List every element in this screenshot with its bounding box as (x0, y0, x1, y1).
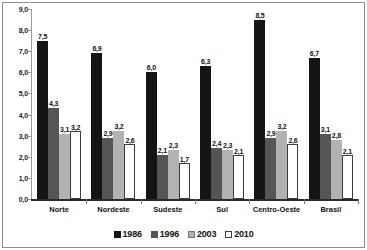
bar-brasil-1986: 6,7 (309, 58, 320, 199)
bar-value-label: 3,2 (277, 123, 286, 130)
y-axis-tick-mark (28, 199, 31, 200)
y-axis-tick-mark (28, 115, 31, 116)
legend-item-1996[interactable]: 1996 (151, 229, 179, 239)
bar-group-bars: 8,52,93,22,6 (249, 9, 303, 199)
bar-value-label: 1,7 (180, 156, 189, 163)
legend-item-2003[interactable]: 2003 (188, 229, 216, 239)
bar-value-label: 6,7 (310, 50, 319, 57)
bar-group-bars: 6,02,12,31,7 (141, 9, 195, 199)
bar-group: 6,92,93,22,6 (86, 9, 140, 199)
legend-item-2010[interactable]: 2010 (225, 229, 253, 239)
x-axis-separator (141, 199, 142, 204)
bar-sul-1986: 6,3 (200, 66, 211, 199)
y-axis-tick-mark (28, 178, 31, 179)
bar-value-label: 6,9 (92, 45, 101, 52)
legend-item-1986[interactable]: 1986 (114, 229, 142, 239)
bar-value-label: 6,3 (201, 58, 210, 65)
y-axis: 9,08,07,06,05,04,03,02,01,00,0 (9, 9, 31, 199)
y-axis-tick-mark (28, 51, 31, 52)
x-axis-separator (358, 199, 359, 204)
bar-group: 6,73,12,82,1 (304, 9, 358, 199)
legend-label: 2003 (197, 229, 216, 239)
bar-sudeste-2003: 2,3 (168, 150, 179, 199)
x-axis-separator (304, 199, 305, 204)
y-axis-tick-mark (28, 93, 31, 94)
bar-value-label: 6,0 (147, 64, 156, 71)
bar-value-label: 2,4 (212, 140, 221, 147)
bar-value-label: 2,8 (332, 132, 341, 139)
bar-norte-1986: 7,5 (37, 41, 48, 199)
bar-sul-1996: 2,4 (211, 148, 222, 199)
x-axis-category-label: Norte (32, 205, 86, 214)
bar-group: 6,02,12,31,7 (141, 9, 195, 199)
bar-nordeste-2010: 2,6 (124, 144, 135, 199)
bar-brasil-2003: 2,8 (331, 140, 342, 199)
x-axis-category-label: Sul (195, 205, 249, 214)
legend-swatch-icon (151, 231, 158, 238)
y-axis-tick-label: 5,0 (19, 90, 28, 97)
bar-group: 8,52,93,22,6 (249, 9, 303, 199)
x-axis-separator (86, 199, 87, 204)
bar-value-label: 2,9 (266, 130, 275, 137)
chart-legend: 1986199620032010 (3, 229, 364, 239)
bar-sudeste-1986: 6,0 (146, 72, 157, 199)
bar-value-label: 2,3 (223, 142, 232, 149)
x-axis-category-label: Centro-Oeste (249, 205, 303, 214)
y-axis-tick-label: 3,0 (19, 132, 28, 139)
bar-group: 7,54,33,13,2 (32, 9, 86, 199)
y-axis-tick-label: 1,0 (19, 174, 28, 181)
x-axis-separator (249, 199, 250, 204)
bar-norte-2010: 3,2 (70, 131, 81, 199)
legend-label: 1986 (123, 229, 142, 239)
bar-sudeste-2010: 1,7 (179, 163, 190, 199)
bar-group-bars: 7,54,33,13,2 (32, 9, 86, 199)
legend-swatch-icon (188, 231, 195, 238)
bar-value-label: 2,1 (343, 148, 352, 155)
bar-value-label: 8,5 (255, 12, 264, 19)
legend-label: 2010 (234, 229, 253, 239)
y-axis-tick-label: 2,0 (19, 153, 28, 160)
bar-value-label: 3,2 (114, 123, 123, 130)
bar-value-label: 2,1 (158, 147, 167, 154)
bars-container: 7,54,33,13,26,92,93,22,66,02,12,31,76,32… (32, 9, 358, 199)
y-axis-tick-label: 0,0 (19, 196, 28, 203)
bar-value-label: 7,5 (38, 33, 47, 40)
bar-group-bars: 6,92,93,22,6 (86, 9, 140, 199)
y-axis-tick-label: 8,0 (19, 27, 28, 34)
y-axis-tick-label: 7,0 (19, 48, 28, 55)
bar-group-bars: 6,32,42,32,1 (195, 9, 249, 199)
bar-norte-1996: 4,3 (48, 108, 59, 199)
y-axis-tick-mark (28, 157, 31, 158)
y-axis-tick-mark (28, 9, 31, 10)
bar-value-label: 2,3 (169, 142, 178, 149)
bar-centro-oeste-2010: 2,6 (287, 144, 298, 199)
y-axis-tick-mark (28, 136, 31, 137)
x-axis-category-label: Brasil (304, 205, 358, 214)
bar-centro-oeste-1996: 2,9 (265, 138, 276, 199)
y-axis-tick-label: 6,0 (19, 69, 28, 76)
legend-swatch-icon (225, 231, 232, 238)
legend-swatch-icon (114, 231, 121, 238)
x-axis-category-label: Sudeste (141, 205, 195, 214)
bar-norte-2003: 3,1 (59, 134, 70, 199)
chart-frame: 9,08,07,06,05,04,03,02,01,00,0 7,54,33,1… (2, 2, 365, 248)
bar-sudeste-1996: 2,1 (157, 155, 168, 199)
bar-nordeste-1986: 6,9 (91, 53, 102, 199)
bar-value-label: 4,3 (49, 100, 58, 107)
x-axis-category-label: Nordeste (86, 205, 140, 214)
plot-area: 9,08,07,06,05,04,03,02,01,00,0 7,54,33,1… (9, 9, 362, 205)
bar-value-label: 2,1 (234, 148, 243, 155)
y-axis-tick-label: 4,0 (19, 111, 28, 118)
x-axis-separator (195, 199, 196, 204)
bar-value-label: 3,2 (71, 124, 80, 131)
bar-group-bars: 6,73,12,82,1 (304, 9, 358, 199)
bar-sul-2003: 2,3 (222, 150, 233, 199)
legend-label: 1996 (160, 229, 179, 239)
bar-sul-2010: 2,1 (233, 155, 244, 199)
bar-nordeste-1996: 2,9 (102, 138, 113, 199)
bar-centro-oeste-1986: 8,5 (254, 20, 265, 199)
chart-screenshot: 9,08,07,06,05,04,03,02,01,00,0 7,54,33,1… (0, 0, 367, 250)
bar-brasil-1996: 3,1 (320, 134, 331, 199)
bar-value-label: 3,1 (321, 126, 330, 133)
bar-centro-oeste-2003: 3,2 (276, 131, 287, 199)
